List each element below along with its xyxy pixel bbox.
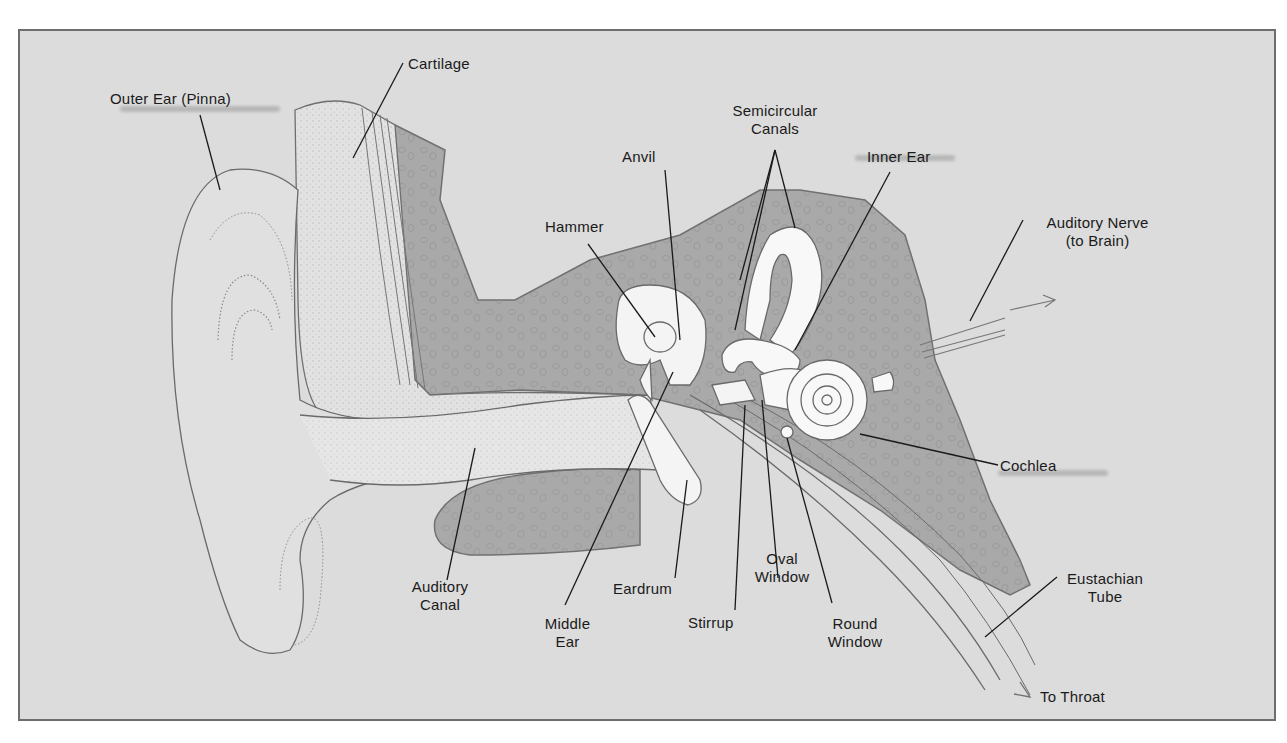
label-inner-ear: Inner Ear xyxy=(867,148,931,166)
label-round-window: Round Window xyxy=(810,615,900,651)
label-anvil: Anvil xyxy=(622,148,656,166)
label-line-2: Window xyxy=(810,633,900,651)
label-stirrup: Stirrup xyxy=(688,614,734,632)
label-line-2: (to Brain) xyxy=(1025,232,1170,250)
label-line-1: Middle xyxy=(530,615,605,633)
label-line-2: Canal xyxy=(395,596,485,614)
label-eardrum: Eardrum xyxy=(613,580,672,598)
label-line-1: Auditory Nerve xyxy=(1025,214,1170,232)
label-line-1: Semicircular xyxy=(710,102,840,120)
label-to-throat: To Throat xyxy=(1040,688,1105,706)
label-cartilage: Cartilage xyxy=(408,55,470,73)
label-hammer: Hammer xyxy=(545,218,604,236)
label-line-2: Ear xyxy=(530,633,605,651)
label-semicircular-canals: Semicircular Canals xyxy=(710,102,840,138)
label-middle-ear: Middle Ear xyxy=(530,615,605,651)
label-line-2: Window xyxy=(737,568,827,586)
label-outer-ear: Outer Ear (Pinna) xyxy=(110,90,231,108)
label-auditory-canal: Auditory Canal xyxy=(395,578,485,614)
label-line-1: Oval xyxy=(737,550,827,568)
temporal-bone xyxy=(395,125,1030,595)
label-oval-window: Oval Window xyxy=(737,550,827,586)
label-eustachian-tube: Eustachian Tube xyxy=(1060,570,1150,606)
label-line-2: Canals xyxy=(710,120,840,138)
label-line-1: Auditory xyxy=(395,578,485,596)
label-line-2: Tube xyxy=(1060,588,1150,606)
label-auditory-nerve: Auditory Nerve (to Brain) xyxy=(1025,214,1170,250)
label-line-1: Round xyxy=(810,615,900,633)
label-cochlea: Cochlea xyxy=(1000,457,1056,475)
auditory-nerve xyxy=(920,295,1055,358)
label-line-1: Eustachian xyxy=(1060,570,1150,588)
